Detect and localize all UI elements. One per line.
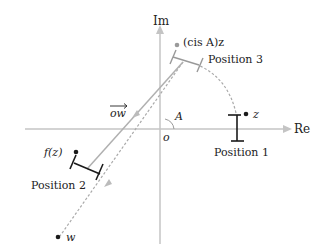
rotation-arc	[200, 66, 236, 113]
point-w	[56, 235, 61, 240]
point-f-z	[74, 150, 79, 155]
label-position-1: Position 1	[214, 146, 269, 159]
label-rotated-z: (cis A)z	[183, 36, 224, 49]
point-rotated-z	[175, 43, 180, 48]
complex-plane-diagram: Im Re o A z w (cis A)z f(z) ow Position …	[0, 0, 324, 251]
real-axis	[25, 125, 292, 133]
label-z: z	[252, 108, 259, 121]
point-z	[244, 112, 249, 117]
origin-label: o	[163, 131, 170, 144]
real-axis-arrow-icon	[283, 125, 292, 133]
dashed-direction-arrow-icon	[104, 179, 112, 187]
imag-axis-label: Im	[153, 14, 170, 28]
dashed-line-to-w	[60, 62, 183, 236]
angle-label: A	[174, 110, 183, 123]
label-w: w	[66, 231, 76, 244]
real-axis-label: Re	[294, 122, 310, 136]
label-f-z: f(z)	[43, 146, 62, 159]
segment-position-1	[228, 115, 244, 141]
segment-position-3	[170, 50, 203, 72]
vector-label: ow	[110, 107, 127, 120]
label-position-3: Position 3	[208, 53, 263, 66]
segment-position-2	[70, 155, 103, 180]
angle-arc	[165, 119, 174, 129]
label-position-2: Position 2	[31, 179, 86, 192]
